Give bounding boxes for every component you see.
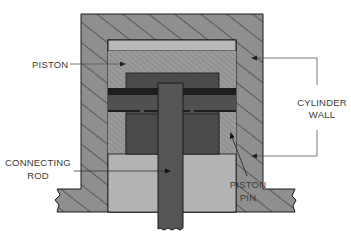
label-connecting-rod-1: CONNECTING: [5, 157, 71, 168]
label-piston-pin-2: PIN: [240, 192, 256, 203]
label-piston: PISTON: [32, 59, 68, 70]
piston-cylinder-diagram: PISTON CYLINDER WALL CONNECTING ROD PIST…: [0, 0, 351, 233]
label-connecting-rod-2: ROD: [27, 170, 49, 181]
label-cylinder-wall-1: CYLINDER: [297, 97, 347, 108]
connecting-rod: [158, 83, 183, 230]
combustion-space: [108, 40, 236, 51]
label-cylinder-wall-2: WALL: [309, 109, 335, 120]
label-piston-pin-1: PISTON: [230, 179, 266, 190]
